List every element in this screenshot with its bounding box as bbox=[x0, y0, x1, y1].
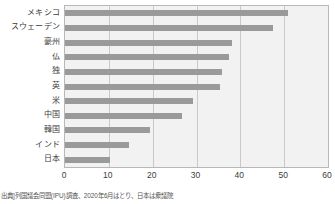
bar-row bbox=[65, 83, 328, 91]
bar-row bbox=[65, 53, 328, 61]
gridline-60 bbox=[328, 6, 329, 167]
bar bbox=[65, 98, 193, 104]
bar bbox=[65, 142, 129, 148]
bar bbox=[65, 84, 220, 90]
plot-area bbox=[64, 5, 329, 168]
x-tick-label: 10 bbox=[103, 170, 112, 181]
bar-row bbox=[65, 112, 328, 120]
y-axis-label: 日本 bbox=[0, 154, 60, 163]
bar-row bbox=[65, 39, 328, 47]
y-axis-label: 独 bbox=[0, 66, 60, 75]
bar-series bbox=[65, 6, 328, 167]
x-tick-label: 40 bbox=[235, 170, 244, 181]
x-axis-tick-labels: 0102030405060 bbox=[64, 170, 329, 184]
bar bbox=[65, 69, 222, 75]
bar bbox=[65, 54, 229, 60]
y-axis-label: 韓国 bbox=[0, 125, 60, 134]
x-tick-label: 60 bbox=[322, 170, 331, 181]
x-tick-label: 20 bbox=[147, 170, 156, 181]
y-axis-label: 中国 bbox=[0, 110, 60, 119]
bar bbox=[65, 10, 288, 16]
bar-row bbox=[65, 9, 328, 17]
bar-row bbox=[65, 24, 328, 32]
bar bbox=[65, 113, 182, 119]
bar-chart-figure: メキシコスウェーデン豪州仏独英米中国韓国インド日本 0102030405060 … bbox=[0, 0, 335, 204]
bar-row bbox=[65, 156, 328, 164]
bar bbox=[65, 25, 273, 31]
x-tick-label: 0 bbox=[62, 170, 67, 181]
y-axis-label: メキシコ bbox=[0, 8, 60, 17]
bar-row bbox=[65, 126, 328, 134]
y-axis-label: 豪州 bbox=[0, 37, 60, 46]
bar bbox=[65, 127, 150, 133]
bar-row bbox=[65, 97, 328, 105]
y-axis-label: インド bbox=[0, 140, 60, 149]
y-axis-label: 仏 bbox=[0, 52, 60, 61]
bar-row bbox=[65, 68, 328, 76]
y-axis-label: 米 bbox=[0, 96, 60, 105]
y-axis-labels: メキシコスウェーデン豪州仏独英米中国韓国インド日本 bbox=[0, 5, 60, 168]
x-tick-label: 50 bbox=[278, 170, 287, 181]
bar-row bbox=[65, 141, 328, 149]
source-note: 出典]列国議会同盟(IPU)調査、2020年6月はとり、日本は衆議院 bbox=[1, 191, 335, 200]
y-axis-label: 英 bbox=[0, 81, 60, 90]
x-tick-label: 30 bbox=[191, 170, 200, 181]
y-axis-label: スウェーデン bbox=[0, 22, 60, 31]
bar bbox=[65, 40, 232, 46]
bar bbox=[65, 157, 110, 163]
